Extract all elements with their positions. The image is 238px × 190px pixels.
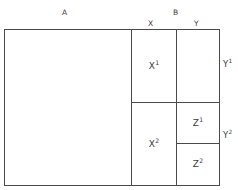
region-x1: [131, 29, 177, 103]
label-b: B: [173, 8, 178, 17]
label-y1: Y1: [223, 60, 232, 69]
region-z2: [176, 143, 220, 186]
label-x: X: [148, 19, 153, 28]
region-x2: [131, 102, 177, 186]
label-a: A: [62, 8, 67, 17]
diagram-canvas: A X B Y X1 X2 Z1 Z2 Y1 Y2: [0, 0, 238, 190]
region-a: [4, 29, 132, 186]
region-y1-cell: [176, 29, 220, 103]
label-y2: Y2: [223, 131, 232, 140]
label-y: Y: [194, 19, 199, 28]
region-z1: [176, 102, 220, 144]
